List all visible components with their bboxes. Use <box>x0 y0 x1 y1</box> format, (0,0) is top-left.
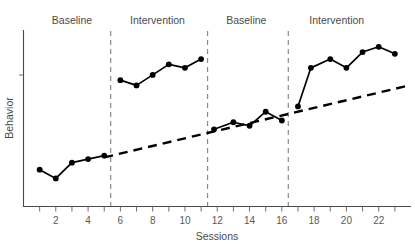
data-point <box>376 44 382 50</box>
data-point <box>198 56 204 62</box>
series-path <box>40 156 105 179</box>
x-axis-tick-label: 20 <box>341 215 353 226</box>
data-point <box>117 77 123 83</box>
x-axis-tick-label: 6 <box>118 215 124 226</box>
x-axis-tick-label: 22 <box>373 215 385 226</box>
data-point <box>37 167 43 173</box>
data-point <box>295 104 301 110</box>
x-axis-tick-label: 16 <box>276 215 288 226</box>
phase-label-baseline-2: Baseline <box>226 14 266 26</box>
data-point <box>85 156 91 162</box>
phase-label-intervention-1: Intervention <box>130 14 185 26</box>
x-axis-tick-label: 4 <box>85 215 91 226</box>
x-axis-tick-label: 10 <box>179 215 191 226</box>
x-axis-title: Sessions <box>196 230 239 242</box>
series-path <box>298 47 395 107</box>
x-axis-tick-label: 2 <box>53 215 59 226</box>
data-point <box>134 83 140 89</box>
data-point <box>308 65 314 71</box>
data-point <box>392 51 398 57</box>
data-point <box>344 65 350 71</box>
axes-group <box>19 30 411 207</box>
data-point <box>327 56 333 62</box>
data-point <box>166 61 172 67</box>
x-axis-tick-label: 14 <box>244 215 256 226</box>
data-point <box>247 123 253 129</box>
single-case-design-chart: Baseline Intervention Baseline Intervent… <box>0 0 415 249</box>
phase-label-baseline-1: Baseline <box>52 14 92 26</box>
baseline-trend-line <box>104 85 409 157</box>
data-point <box>101 153 107 159</box>
series-intervention-1 <box>117 56 204 88</box>
data-point <box>279 118 285 124</box>
data-series-group <box>37 44 398 181</box>
data-point <box>150 72 156 78</box>
data-point <box>263 109 269 115</box>
data-point <box>53 176 59 182</box>
data-point <box>360 49 366 55</box>
x-axis-ticks-group <box>40 207 395 212</box>
series-path <box>120 59 201 85</box>
x-axis-tick-label: 8 <box>150 215 156 226</box>
y-axis-title: Behavior <box>3 97 15 139</box>
phase-labels-group: Baseline Intervention Baseline Intervent… <box>52 14 365 26</box>
chart-canvas: Baseline Intervention Baseline Intervent… <box>0 0 415 249</box>
data-point <box>182 65 188 71</box>
x-axis-tick-label: 12 <box>212 215 224 226</box>
series-baseline-1 <box>37 153 107 182</box>
data-point <box>230 119 236 125</box>
phase-label-intervention-2: Intervention <box>309 14 364 26</box>
x-axis-tick-label: 18 <box>309 215 321 226</box>
x-axis-tick-labels-group: 246810121416182022 <box>53 215 385 226</box>
data-point <box>211 126 217 132</box>
data-point <box>69 160 75 166</box>
trend-line-group <box>104 85 409 157</box>
